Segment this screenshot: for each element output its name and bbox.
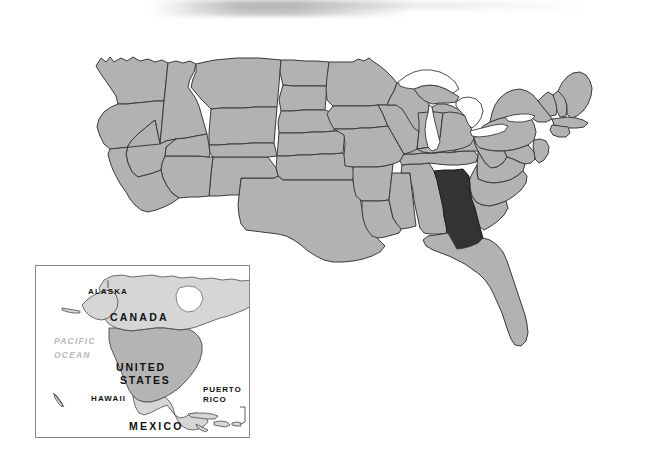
north-america-inset[interactable]: PACIFIC OCEAN ALASKA CANADA UNITED STATE… <box>35 265 250 438</box>
inset-label-hawaii: HAWAII <box>91 395 126 403</box>
inset-label-united-states-line1: UNITED <box>116 362 166 373</box>
state-connecticut[interactable] <box>550 125 570 137</box>
inset-label-puerto-rico-line1: PUERTO <box>203 386 242 394</box>
state-arkansas[interactable] <box>353 164 393 201</box>
inset-label-puerto-rico-line2: RICO <box>203 396 227 404</box>
state-washington[interactable] <box>96 57 168 104</box>
inset-label-united-states-line2: STATES <box>120 375 171 386</box>
inset-puerto-rico <box>232 422 241 426</box>
inset-label-pacific-ocean-line2: OCEAN <box>54 351 91 360</box>
state-florida[interactable] <box>423 233 528 346</box>
state-new-jersey[interactable] <box>533 139 549 163</box>
state-montana[interactable] <box>191 58 281 109</box>
inset-label-alaska: ALASKA <box>88 288 128 296</box>
state-iowa[interactable] <box>327 105 388 129</box>
state-south-dakota[interactable] <box>279 85 327 111</box>
state-north-dakota[interactable] <box>280 60 329 86</box>
inset-label-canada: CANADA <box>110 312 169 323</box>
state-wyoming[interactable] <box>209 107 277 145</box>
state-kansas[interactable] <box>277 131 345 156</box>
state-colorado[interactable] <box>209 143 277 157</box>
state-minnesota[interactable] <box>326 58 397 106</box>
inset-label-pacific-ocean-line1: PACIFIC <box>54 337 96 346</box>
inset-label-mexico: MEXICO <box>129 421 184 432</box>
map-page: PACIFIC OCEAN ALASKA CANADA UNITED STATE… <box>0 0 656 465</box>
